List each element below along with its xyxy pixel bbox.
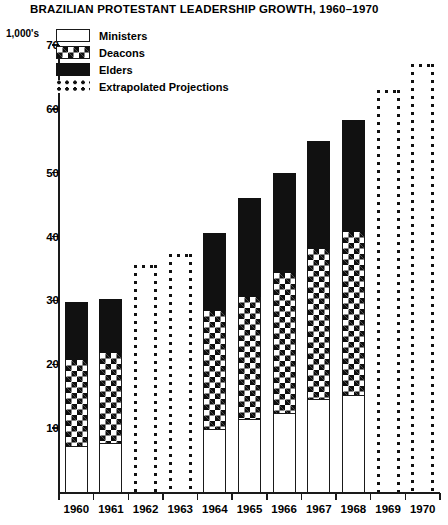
x-axis-tick-label: 1963 — [167, 503, 193, 515]
projection-bar — [411, 64, 434, 492]
stacked-bar — [307, 141, 330, 492]
y-axis-tick-label: 30 — [13, 294, 59, 306]
x-axis-tick-label: 1965 — [237, 503, 263, 515]
x-axis-tick-label: 1966 — [271, 503, 297, 515]
bar-segment-elders — [203, 233, 226, 311]
bar-segment-ministers — [273, 413, 296, 492]
projection-bar-right-edge — [189, 254, 192, 492]
legend-swatch-solid-black — [56, 63, 90, 76]
projection-bar-left-edge — [134, 265, 137, 492]
y-axis-tick-label: 70 — [13, 39, 59, 51]
chart-legend: MinistersDeaconsEldersExtrapolated Proje… — [56, 27, 326, 95]
legend-item-label: Extrapolated Projections — [99, 81, 229, 93]
stacked-bar — [99, 299, 122, 492]
bar-segment-ministers — [203, 429, 226, 492]
bar-segment-deacons — [203, 311, 226, 430]
x-axis-tick-label: 1970 — [410, 503, 436, 515]
projection-bar-right-edge — [431, 64, 434, 492]
bar-segment-elders — [342, 120, 365, 232]
projection-bar — [377, 90, 400, 492]
x-axis-tick — [197, 493, 199, 500]
y-axis-tick-label: 50 — [13, 167, 59, 179]
x-axis-tick — [93, 493, 95, 500]
legend-item: Ministers — [56, 27, 326, 44]
x-axis-tick — [58, 493, 60, 500]
x-axis-tick — [405, 493, 407, 500]
bar-segment-deacons — [65, 360, 88, 446]
bar-segment-ministers — [342, 395, 365, 492]
projection-bar-right-edge — [397, 90, 400, 492]
bar-segment-elders — [99, 299, 122, 354]
stacked-bar — [203, 233, 226, 492]
bar-segment-deacons — [307, 249, 330, 399]
projection-bar-left-edge — [411, 64, 414, 492]
bar-segment-ministers — [307, 399, 330, 492]
legend-swatch-crosshatch — [56, 46, 90, 59]
stacked-bar — [238, 198, 261, 492]
projection-bar-right-edge — [154, 265, 157, 492]
y-axis-tick-label: 60 — [13, 103, 59, 115]
x-axis-tick — [301, 493, 303, 500]
x-axis-tick-label: 1967 — [306, 503, 332, 515]
bar-segment-deacons — [238, 297, 261, 420]
x-axis-tick — [370, 493, 372, 500]
legend-item-label: Deacons — [99, 47, 145, 59]
legend-item-label: Elders — [99, 64, 133, 76]
projection-bar — [134, 265, 157, 492]
projection-bar — [169, 254, 192, 492]
bar-segment-deacons — [273, 273, 296, 413]
stacked-bar — [273, 173, 296, 492]
x-axis-tick — [128, 493, 130, 500]
x-axis-line — [58, 492, 440, 494]
bar-segment-elders — [273, 173, 296, 273]
bar-segment-ministers — [238, 419, 261, 492]
stacked-bar — [65, 302, 88, 492]
legend-item: Deacons — [56, 44, 326, 61]
y-axis-tick-label: 10 — [13, 422, 59, 434]
x-axis-tick-label: 1960 — [64, 503, 90, 515]
x-axis-tick-label: 1964 — [202, 503, 228, 515]
legend-item: Extrapolated Projections — [56, 78, 326, 95]
y-axis-tick-label: 40 — [13, 231, 59, 243]
chart-root: BRAZILIAN PROTESTANT LEADERSHIP GROWTH, … — [0, 0, 448, 525]
projection-bar-left-edge — [377, 90, 380, 492]
bar-segment-ministers — [99, 443, 122, 492]
bar-segment-deacons — [342, 232, 365, 395]
x-axis-tick-label: 1969 — [375, 503, 401, 515]
x-axis-tick-label: 1961 — [98, 503, 124, 515]
bar-segment-ministers — [65, 446, 88, 492]
x-axis-tick — [439, 493, 441, 500]
projection-bar-left-edge — [169, 254, 172, 492]
x-axis-tick — [162, 493, 164, 500]
x-axis-tick — [231, 493, 233, 500]
legend-swatch-dotted-outline — [56, 80, 90, 93]
x-axis-tick — [266, 493, 268, 500]
legend-item-label: Ministers — [99, 30, 147, 42]
x-axis-tick-label: 1968 — [341, 503, 367, 515]
bar-segment-elders — [65, 302, 88, 361]
bar-segment-elders — [307, 141, 330, 249]
stacked-bar — [342, 120, 365, 492]
x-axis-tick-label: 1962 — [133, 503, 159, 515]
bar-segment-elders — [238, 198, 261, 297]
legend-item: Elders — [56, 61, 326, 78]
x-axis-tick — [335, 493, 337, 500]
legend-swatch-white-outline — [56, 29, 90, 42]
bar-segment-deacons — [99, 353, 122, 442]
y-axis-tick-label: 20 — [13, 358, 59, 370]
